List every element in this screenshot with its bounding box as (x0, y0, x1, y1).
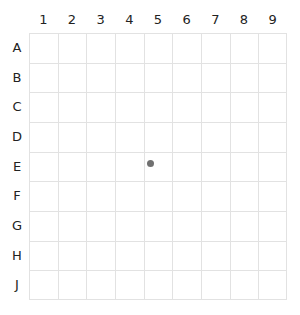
grid-line-vertical (172, 34, 173, 299)
grid-line-horizontal (30, 181, 286, 182)
coordinate-grid (29, 33, 287, 300)
grid-line-horizontal (30, 211, 286, 212)
column-label: 3 (86, 12, 115, 28)
grid-line-horizontal (30, 152, 286, 153)
column-label: 1 (29, 12, 58, 28)
grid-line-horizontal (30, 241, 286, 242)
grid-line-vertical (86, 34, 87, 299)
grid-line-vertical (144, 34, 145, 299)
row-label: F (8, 188, 26, 204)
column-label: 6 (172, 12, 201, 28)
column-label: 5 (144, 12, 173, 28)
grid-line-vertical (258, 34, 259, 299)
row-label: C (8, 99, 26, 115)
column-label: 7 (201, 12, 230, 28)
row-label: E (8, 159, 26, 175)
grid-line-vertical (230, 34, 231, 299)
row-label: B (8, 70, 26, 86)
grid-line-horizontal (30, 63, 286, 64)
column-label: 8 (230, 12, 259, 28)
row-label: H (8, 248, 26, 264)
row-label: A (8, 40, 26, 56)
grid-line-vertical (201, 34, 202, 299)
grid-line-horizontal (30, 270, 286, 271)
grid-line-horizontal (30, 92, 286, 93)
column-label: 4 (115, 12, 144, 28)
grid-line-horizontal (30, 122, 286, 123)
row-label: J (8, 277, 26, 293)
grid-line-vertical (115, 34, 116, 299)
marker-dot (147, 160, 154, 167)
column-label: 2 (58, 12, 87, 28)
row-label: G (8, 218, 26, 234)
grid-line-vertical (58, 34, 59, 299)
row-label: D (8, 129, 26, 145)
column-label: 9 (258, 12, 287, 28)
